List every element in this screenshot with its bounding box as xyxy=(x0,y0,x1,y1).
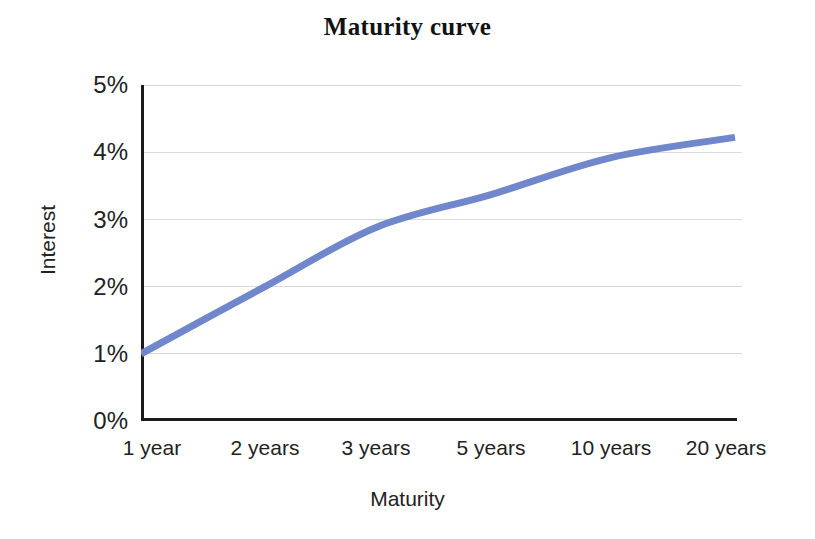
x-tick-label-5-years: 5 years xyxy=(457,437,526,458)
x-tick-label-3-years: 3 years xyxy=(342,437,411,458)
y-tick-label-0: 0% xyxy=(48,409,128,433)
data-series-line xyxy=(141,137,735,353)
x-axis-title: Maturity xyxy=(0,487,815,511)
x-tick-label-1-year: 1 year xyxy=(123,437,181,458)
x-axis-tick-labels: 1 year 2 years 3 years 5 years 10 years … xyxy=(0,437,815,467)
x-tick-label-10-years: 10 years xyxy=(571,437,652,458)
plot-area xyxy=(141,85,742,421)
y-tick-label-2: 2% xyxy=(48,275,128,299)
y-axis-title: Interest xyxy=(36,180,60,300)
chart-container: Maturity curve 5% 4% 3% 2% 1% 0% Interes… xyxy=(0,0,815,539)
axis-lines xyxy=(141,85,737,421)
y-tick-label-3: 3% xyxy=(48,208,128,232)
y-tick-label-1: 1% xyxy=(48,342,128,366)
gridlines xyxy=(141,86,742,354)
x-tick-label-2-years: 2 years xyxy=(231,437,300,458)
y-tick-label-4: 4% xyxy=(48,140,128,164)
y-tick-label-5: 5% xyxy=(48,73,128,97)
x-tick-label-20-years: 20 years xyxy=(686,437,767,458)
plot-svg xyxy=(141,85,742,421)
